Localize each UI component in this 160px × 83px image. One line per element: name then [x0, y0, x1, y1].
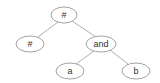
node-and: and [86, 36, 116, 52]
node-a: a [56, 63, 84, 79]
node-hash: # [16, 36, 44, 52]
node-root: # [51, 7, 77, 23]
node-b-label: b [133, 66, 138, 76]
edge-root-to-and [72, 21, 96, 37]
nodes: # # and a b [16, 7, 150, 79]
tree-diagram: # # and a b [0, 0, 160, 83]
edge-and-to-b [110, 50, 128, 64]
node-root-label: # [61, 10, 66, 20]
node-b: b [122, 63, 150, 79]
node-a-label: a [67, 66, 72, 76]
edge-root-to-hash [38, 22, 58, 37]
node-hash-label: # [27, 39, 32, 49]
edge-and-to-a [76, 51, 94, 64]
node-and-label: and [93, 39, 108, 49]
